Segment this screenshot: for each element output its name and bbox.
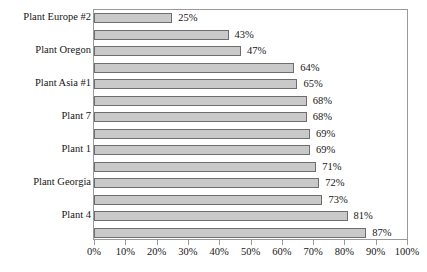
bar <box>94 178 319 188</box>
category-label: Plant Oregon <box>3 45 91 56</box>
bar-row: 47% <box>94 46 407 56</box>
x-tick-label: 0% <box>87 247 101 258</box>
bar-row: 81% <box>94 211 407 221</box>
bar-value-label: 69% <box>316 129 335 140</box>
bar-row: 72% <box>94 178 407 188</box>
x-tick-label: 10% <box>116 247 135 258</box>
bar-value-label: 43% <box>235 30 254 41</box>
bar-row: 25% <box>94 13 407 23</box>
bar-value-label: 69% <box>316 145 335 156</box>
bar <box>94 46 241 56</box>
x-tick-mark <box>219 240 220 245</box>
x-tick-mark <box>157 240 158 245</box>
bar-chart: Plant Europe #2Plant OregonPlant Asia #1… <box>0 0 427 272</box>
x-tick-label: 100% <box>395 247 420 258</box>
x-tick-label: 50% <box>241 247 260 258</box>
x-axis: 0%10%20%30%40%50%60%70%80%90%100% <box>93 240 408 272</box>
x-tick-label: 80% <box>335 247 354 258</box>
x-tick-label: 20% <box>147 247 166 258</box>
bar-row: 43% <box>94 30 407 40</box>
x-tick-mark <box>313 240 314 245</box>
bar-value-label: 73% <box>328 195 347 206</box>
x-tick-label: 40% <box>210 247 229 258</box>
category-label: Plant Europe #2 <box>3 12 91 23</box>
bar <box>94 13 172 23</box>
bar <box>94 195 322 205</box>
bar-value-label: 65% <box>303 79 322 90</box>
bar-row: 65% <box>94 79 407 89</box>
bar-row: 73% <box>94 195 407 205</box>
category-label: Plant 7 <box>3 111 91 122</box>
bar <box>94 63 294 73</box>
x-tick-mark <box>376 240 377 245</box>
x-tick-mark <box>94 240 95 245</box>
bar <box>94 228 366 238</box>
bar <box>94 79 297 89</box>
bar <box>94 129 310 139</box>
bar <box>94 145 310 155</box>
bar-value-label: 68% <box>313 96 332 107</box>
x-tick-label: 90% <box>366 247 385 258</box>
x-tick-mark <box>282 240 283 245</box>
category-axis: Plant Europe #2Plant OregonPlant Asia #1… <box>0 9 91 240</box>
bar-value-label: 81% <box>354 211 373 222</box>
bar-value-label: 72% <box>325 178 344 189</box>
bar <box>94 162 316 172</box>
bar-row: 68% <box>94 112 407 122</box>
bar <box>94 211 348 221</box>
x-tick-mark <box>407 240 408 245</box>
bar <box>94 112 307 122</box>
x-tick-label: 60% <box>272 247 291 258</box>
x-tick-mark <box>251 240 252 245</box>
plot-area: 25%43%47%64%65%68%68%69%69%71%72%73%81%8… <box>93 9 408 240</box>
category-label: Plant 1 <box>3 144 91 155</box>
bar-value-label: 71% <box>322 162 341 173</box>
bar-value-label: 87% <box>372 228 391 239</box>
category-label: Plant Georgia <box>3 177 91 188</box>
x-tick-mark <box>344 240 345 245</box>
x-tick-label: 30% <box>178 247 197 258</box>
bar-value-label: 64% <box>300 63 319 74</box>
bar <box>94 96 307 106</box>
bar <box>94 30 229 40</box>
x-tick-mark <box>125 240 126 245</box>
bar-row: 71% <box>94 162 407 172</box>
bar-row: 69% <box>94 145 407 155</box>
bar-row: 68% <box>94 96 407 106</box>
category-label: Plant Asia #1 <box>3 78 91 89</box>
bar-row: 64% <box>94 63 407 73</box>
x-tick-mark <box>188 240 189 245</box>
bar-row: 87% <box>94 228 407 238</box>
bar-value-label: 25% <box>178 13 197 24</box>
category-label: Plant 4 <box>3 210 91 221</box>
bar-row: 69% <box>94 129 407 139</box>
x-tick-label: 70% <box>303 247 322 258</box>
bar-value-label: 47% <box>247 46 266 57</box>
bar-value-label: 68% <box>313 112 332 123</box>
